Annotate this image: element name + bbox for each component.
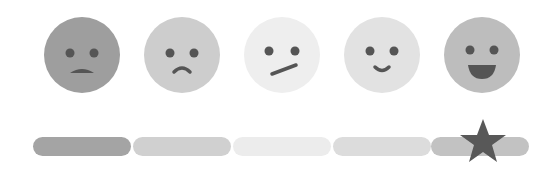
happy-face-icon bbox=[444, 17, 520, 93]
sad-face-icon bbox=[144, 17, 220, 93]
selected-rating-marker: Very satisfied bbox=[459, 117, 507, 165]
rating-option-very-dissatisfied[interactable]: Very dissatisfied bbox=[44, 17, 120, 93]
rating-bar-dissatisfied[interactable] bbox=[133, 137, 231, 156]
rating-bar-satisfied[interactable] bbox=[333, 137, 431, 156]
neutral-face-icon bbox=[244, 17, 320, 93]
rating-bar-very-dissatisfied[interactable] bbox=[33, 137, 131, 156]
star-icon bbox=[459, 117, 507, 165]
rating-option-satisfied[interactable]: Satisfied bbox=[344, 17, 420, 93]
rating-option-very-satisfied[interactable]: Very satisfied bbox=[444, 17, 520, 93]
rating-option-neutral[interactable]: Neutral bbox=[244, 17, 320, 93]
rating-option-dissatisfied[interactable]: Dissatisfied bbox=[144, 17, 220, 93]
angry-face-icon bbox=[44, 17, 120, 93]
smile-face-icon bbox=[344, 17, 420, 93]
rating-bar-neutral[interactable] bbox=[233, 137, 331, 156]
